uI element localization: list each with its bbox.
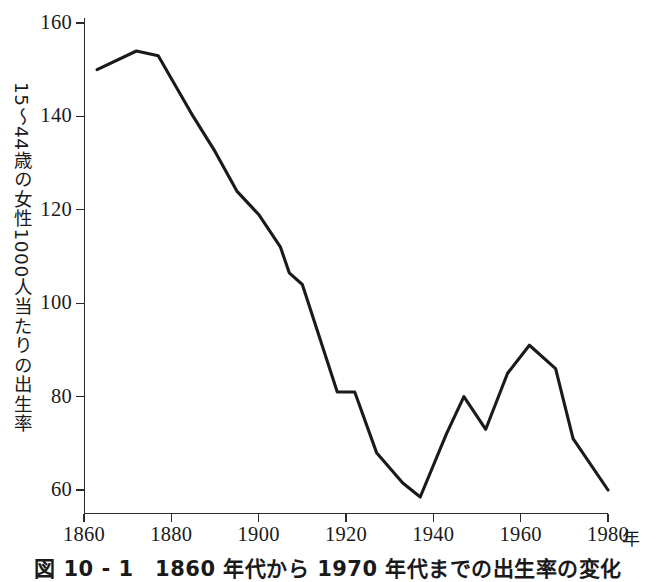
figure-birth-rate-chart: 15〜44歳の女性1000人当たりの出生率 1601401201008060 1… <box>0 0 656 582</box>
series-path-fertility-rate <box>97 51 608 497</box>
series-line-chart <box>0 0 656 582</box>
figure-caption: 図 10 - 1 1860 年代から 1970 年代までの出生率の変化 <box>0 552 656 582</box>
